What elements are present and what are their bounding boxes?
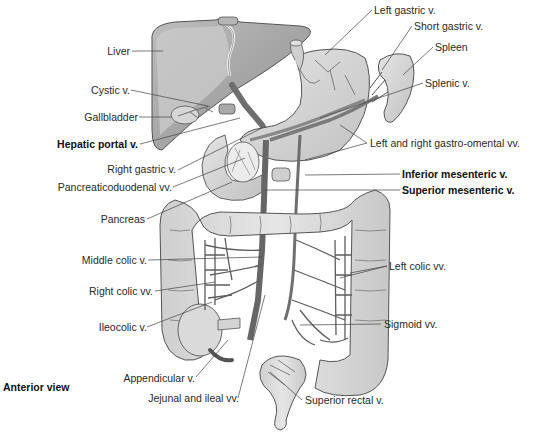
label-right-gastric-v: Right gastric v. xyxy=(107,163,176,175)
label-spleen: Spleen xyxy=(435,41,468,53)
label-superior-rectal-v: Superior rectal v. xyxy=(305,394,384,406)
label-middle-colic-v: Middle colic v. xyxy=(82,254,147,266)
label-inferior-mesenteric-v: Inferior mesenteric v. xyxy=(402,168,507,180)
sigmoid-rectum xyxy=(260,356,306,430)
label-liver: Liver xyxy=(107,45,130,57)
label-cystic-v: Cystic v. xyxy=(91,84,130,96)
label-ileocolic-v: Ileocolic v. xyxy=(99,321,147,333)
label-gastro-omental-vv: Left and right gastro-omental vv. xyxy=(370,137,520,149)
label-hepatic-portal-v: Hepatic portal v. xyxy=(57,138,138,150)
label-jejunal-ileal-vv: Jejunal and ileal vv. xyxy=(148,392,239,404)
label-pancreaticoduodenal-vv: Pancreaticoduodenal vv. xyxy=(58,181,172,193)
label-pancreas: Pancreas xyxy=(101,213,145,225)
label-left-gastric-v: Left gastric v. xyxy=(374,4,436,16)
label-superior-mesenteric-v: Superior mesenteric v. xyxy=(402,184,514,196)
hepatic-portal-diagram: Liver Cystic v. Gallbladder Hepatic port… xyxy=(0,0,534,437)
label-short-gastric-v: Short gastric v. xyxy=(414,20,483,32)
anatomy-illustration xyxy=(0,0,534,437)
label-appendicular-v: Appendicular v. xyxy=(123,372,195,384)
view-label: Anterior view xyxy=(3,381,70,393)
label-sigmoid-vv: Sigmoid vv. xyxy=(384,318,438,330)
label-gallbladder: Gallbladder xyxy=(84,111,138,123)
label-right-colic-vv: Right colic vv. xyxy=(89,285,153,297)
label-splenic-v: Splenic v. xyxy=(425,77,470,89)
label-left-colic-vv: Left colic vv. xyxy=(389,260,446,272)
